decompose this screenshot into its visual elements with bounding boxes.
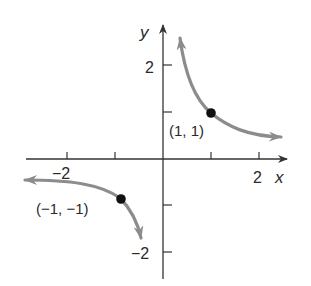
y-tick-label-neg2: −2 — [131, 245, 149, 262]
y-axis-label: y — [139, 23, 150, 42]
curve-branch-positive-upper — [180, 38, 211, 113]
point-neg1-neg1 — [116, 194, 126, 204]
curve-branch-negative-down — [120, 198, 141, 238]
point-label-neg1-neg1: (−1, −1) — [36, 200, 89, 217]
curve-branch-positive-lower — [211, 113, 281, 137]
x-tick-label-pos2: 2 — [253, 169, 262, 186]
hyperbola-chart: y x −2 2 2 −2 (1, 1) (−1, −1) — [0, 0, 311, 286]
point-1-1 — [206, 108, 216, 118]
x-axis-label: x — [274, 168, 284, 187]
curve-branch-negative-left — [25, 180, 120, 198]
x-tick-label-neg2: −2 — [52, 165, 70, 182]
y-tick-label-pos2: 2 — [145, 59, 154, 76]
point-label-1-1: (1, 1) — [169, 122, 204, 139]
